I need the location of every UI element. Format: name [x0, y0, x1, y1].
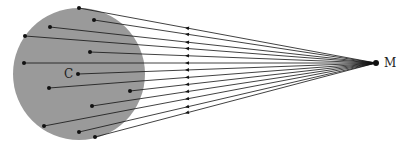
arrowhead-icon — [185, 47, 189, 51]
mass-element-dot — [42, 124, 46, 128]
arrowhead-icon — [185, 27, 189, 31]
diagram-canvas: C M — [0, 0, 406, 148]
point-m-dot — [373, 60, 379, 66]
arrowhead-icon — [185, 76, 189, 80]
arrowhead-icon — [185, 61, 189, 65]
arrowhead-icon — [185, 90, 189, 94]
mass-element-dot — [88, 50, 92, 54]
mass-element-dot — [90, 104, 94, 108]
arrowhead-icon — [185, 68, 189, 72]
mass-element-dot — [128, 89, 132, 93]
arrowhead-icon — [185, 54, 189, 58]
mass-element-dot — [93, 135, 97, 139]
arrowhead-icon — [185, 33, 189, 37]
diagram-svg: C M — [0, 0, 406, 148]
arrowhead-icon — [185, 97, 189, 101]
mass-element-dot — [22, 61, 26, 65]
mass-element-dot — [77, 6, 81, 10]
mass-element-dot — [92, 18, 96, 22]
label-m: M — [384, 56, 396, 70]
mass-element-dot — [77, 130, 81, 134]
mass-element-dot — [48, 25, 52, 29]
arrowhead-icon — [185, 105, 189, 109]
arrowheads — [185, 27, 189, 114]
label-c: C — [64, 67, 73, 81]
mass-element-dot — [23, 34, 27, 38]
mass-element-dot — [76, 72, 80, 76]
mass-element-dot — [47, 86, 51, 90]
